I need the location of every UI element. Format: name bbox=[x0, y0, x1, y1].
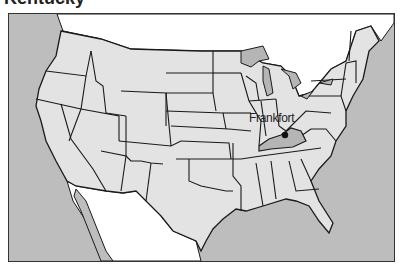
map-title: Kentucky bbox=[4, 0, 85, 9]
frankfort-capital-dot bbox=[282, 132, 288, 138]
us-map: Frankfort bbox=[8, 13, 395, 262]
frankfort-label: Frankfort bbox=[249, 111, 294, 125]
us-map-svg bbox=[9, 14, 394, 261]
